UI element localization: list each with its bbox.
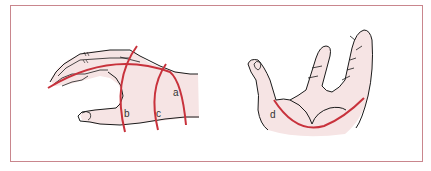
label-d: d: [270, 109, 276, 120]
label-b: b: [124, 108, 130, 119]
label-a: a: [173, 87, 179, 98]
hand-diagram: a b c d: [0, 0, 431, 171]
palm-hand-illustration: d: [248, 30, 373, 136]
lateral-hand-illustration: a b c: [48, 46, 199, 132]
label-c: c: [156, 108, 161, 119]
